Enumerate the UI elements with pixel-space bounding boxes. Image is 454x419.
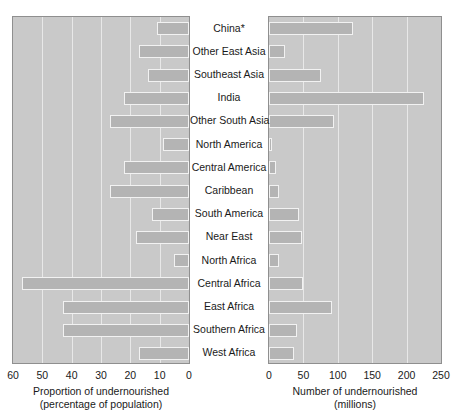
- tick-label-proportion-20: 20: [124, 369, 136, 381]
- bar-number-southernafrica: [269, 324, 297, 337]
- bar-number-centralafrica: [269, 277, 303, 290]
- tick-label-number-100: 100: [329, 369, 347, 381]
- bar-number-othersouthasia: [269, 115, 334, 128]
- bar-number-othereastasia: [269, 45, 285, 58]
- bar-number-caribbean: [269, 185, 279, 198]
- bar-proportion-othersouthasia: [110, 115, 189, 128]
- bar-proportion-northafrica: [174, 254, 189, 267]
- category-label-southamerica: South America: [190, 207, 268, 219]
- category-label-southeastasia: Southeast Asia: [190, 68, 268, 80]
- bar-number-northafrica: [269, 254, 279, 267]
- category-label-neareast: Near East: [190, 230, 268, 242]
- category-label-northamerica: North America: [190, 138, 268, 150]
- tick-label-number-0: 0: [266, 369, 272, 381]
- tick-label-proportion-0: 0: [186, 369, 192, 381]
- gridline-number-100: [338, 17, 339, 363]
- bar-proportion-centralamerica: [124, 161, 189, 174]
- category-label-othersouthasia: Other South Asia: [190, 114, 268, 126]
- bar-proportion-northamerica: [163, 138, 189, 151]
- axis-title-number-line1: Number of undernourished: [293, 385, 418, 398]
- category-label-india: India: [190, 91, 268, 103]
- bar-proportion-eastafrica: [63, 301, 189, 314]
- bar-number-southeastasia: [269, 69, 321, 82]
- category-label-centralamerica: Central America: [190, 161, 268, 173]
- bar-proportion-southeastasia: [148, 69, 189, 82]
- bar-proportion-southamerica: [152, 208, 189, 221]
- bar-proportion-centralafrica: [22, 277, 189, 290]
- tick-label-proportion-40: 40: [66, 369, 78, 381]
- bar-number-neareast: [269, 231, 302, 244]
- bar-proportion-southernafrica: [63, 324, 189, 337]
- bar-proportion-india: [124, 92, 189, 105]
- axis-title-proportion-line1: Proportion of undernourished: [33, 385, 169, 398]
- bar-number-china: [269, 22, 353, 35]
- right-plot-panel-number: [268, 16, 442, 364]
- bar-number-centralamerica: [269, 161, 276, 174]
- tick-label-number-250: 250: [432, 369, 450, 381]
- bar-number-westafrica: [269, 347, 294, 360]
- left-plot-panel-proportion: [12, 16, 190, 364]
- tick-label-number-50: 50: [298, 369, 310, 381]
- bar-proportion-neareast: [136, 231, 189, 244]
- category-label-china: China*: [190, 22, 268, 34]
- category-label-westafrica: West Africa: [190, 346, 268, 358]
- category-label-southernafrica: Southern Africa: [190, 323, 268, 335]
- axis-title-number-line2: (millions): [334, 398, 376, 411]
- category-label-centralafrica: Central Africa: [190, 277, 268, 289]
- bar-number-india: [269, 92, 424, 105]
- tick-label-number-150: 150: [363, 369, 381, 381]
- bar-proportion-othereastasia: [139, 45, 189, 58]
- tick-label-proportion-10: 10: [154, 369, 166, 381]
- bar-proportion-china: [157, 22, 189, 35]
- bar-number-eastafrica: [269, 301, 332, 314]
- gridline-number-200: [407, 17, 408, 363]
- category-label-northafrica: North Africa: [190, 254, 268, 266]
- bar-proportion-westafrica: [139, 347, 189, 360]
- bar-number-southamerica: [269, 208, 299, 221]
- category-label-othereastasia: Other East Asia: [190, 45, 268, 57]
- gridline-proportion-50: [42, 17, 43, 363]
- tick-label-proportion-60: 60: [7, 369, 19, 381]
- category-label-eastafrica: East Africa: [190, 300, 268, 312]
- tick-label-proportion-30: 30: [95, 369, 107, 381]
- axis-title-proportion-line2: (percentage of population): [40, 398, 163, 411]
- bar-number-northamerica: [269, 138, 272, 151]
- tick-label-proportion-50: 50: [36, 369, 48, 381]
- tick-label-number-200: 200: [398, 369, 416, 381]
- undernourishment-pyramid-chart: China*Other East AsiaSoutheast AsiaIndia…: [0, 0, 454, 419]
- gridline-number-150: [372, 17, 373, 363]
- category-label-caribbean: Caribbean: [190, 184, 268, 196]
- bar-proportion-caribbean: [110, 185, 189, 198]
- category-label-column: China*Other East AsiaSoutheast AsiaIndia…: [190, 16, 268, 364]
